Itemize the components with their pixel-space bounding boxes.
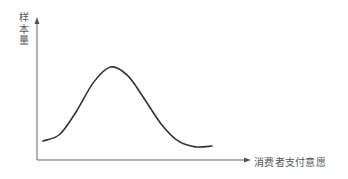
distribution-curve xyxy=(43,67,212,147)
chart-canvas xyxy=(0,0,348,179)
y-axis-arrow-icon xyxy=(35,17,40,24)
x-axis-arrow-icon xyxy=(244,158,251,163)
x-axis-label: 消费者支付意愿 xyxy=(254,154,326,169)
